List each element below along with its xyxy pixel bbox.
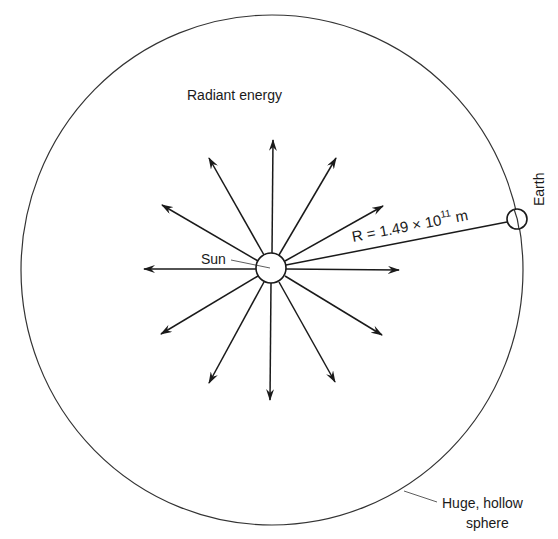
arrow-up-left-steep: [209, 158, 264, 255]
radius-unit: m: [450, 206, 470, 226]
arrow-down-left-shallow: [161, 276, 258, 334]
arrow-down: [270, 283, 271, 400]
arrow-up: [272, 140, 273, 253]
arrow-up-right-steep: [279, 158, 336, 255]
radiant-energy-label: Radiant energy: [187, 87, 282, 103]
sphere-label-line1: Huge, hollow: [442, 495, 524, 511]
arrow-right: [286, 269, 399, 270]
sun-circle: [256, 253, 286, 283]
sun-radiation-diagram: Radiant energy Sun Earth R = 1.49 × 1011…: [0, 0, 558, 539]
arrow-down-right-shallow: [285, 276, 382, 335]
sphere-label-line2: sphere: [466, 515, 509, 531]
sphere-leader-line: [404, 491, 437, 502]
diagram-canvas: Radiant energy Sun Earth R = 1.49 × 1011…: [0, 0, 558, 539]
radius-label: R = 1.49 × 1011 m: [350, 204, 469, 245]
arrow-down-right-steep: [279, 282, 335, 382]
earth-label: Earth: [531, 173, 547, 206]
sun-label: Sun: [201, 251, 226, 267]
arrow-down-left-steep: [209, 282, 264, 383]
